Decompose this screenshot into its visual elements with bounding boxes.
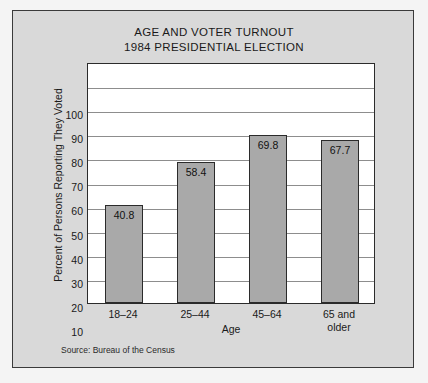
bar-value-label: 69.8 [250,139,286,151]
bar-value-label: 40.8 [106,209,142,221]
y-axis-tick-label: 100 [65,109,83,121]
y-axis-tick-label: 90 [71,133,83,145]
y-axis-tick-label: 70 [71,181,83,193]
x-axis-tick-line: 65 and [303,308,375,321]
chart-title: AGE AND VOTER TURNOUT [13,25,415,40]
bar-value-label: 67.7 [322,144,358,156]
y-axis-tick-labels: 100908070605040302010 [49,63,83,304]
bar: 58.4 [177,162,215,303]
bar-value-label: 58.4 [178,166,214,178]
source-note: Source: Bureau of the Census [61,345,175,355]
y-axis-tick-label: 10 [71,326,83,338]
chart-title-block: AGE AND VOTER TURNOUT 1984 PRESIDENTIAL … [13,25,415,55]
chart-panel: AGE AND VOTER TURNOUT 1984 PRESIDENTIAL … [12,10,414,368]
y-axis-tick-label: 60 [71,205,83,217]
bar: 67.7 [321,140,359,303]
bar: 69.8 [249,135,287,303]
bar: 40.8 [105,205,143,303]
plot-area: 40.858.469.867.7 [87,63,375,304]
bar-series: 40.858.469.867.7 [88,64,374,303]
chart-subtitle: 1984 PRESIDENTIAL ELECTION [13,40,415,55]
y-axis-tick-label: 40 [71,254,83,266]
y-axis-tick-label: 30 [71,278,83,290]
y-axis-tick-label: 50 [71,230,83,242]
x-axis-tick-line: 25–44 [159,308,231,321]
y-axis-tick-label: 20 [71,302,83,314]
y-axis-tick-label: 80 [71,157,83,169]
x-axis-tick-line: 45–64 [231,308,303,321]
x-axis-tick-line: 18–24 [87,308,159,321]
x-axis-tick-label: 18–24 [87,308,159,321]
x-axis-tick-label: 45–64 [231,308,303,321]
x-axis-tick-label: 25–44 [159,308,231,321]
chart-figure: AGE AND VOTER TURNOUT 1984 PRESIDENTIAL … [0,0,428,383]
x-axis-title: Age [87,323,375,335]
